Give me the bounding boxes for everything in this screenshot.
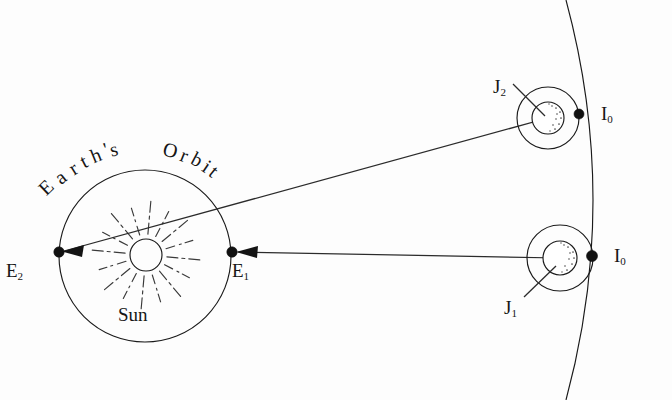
label-earth-e2-text: E <box>6 260 18 281</box>
io-dot-lower <box>587 251 598 262</box>
light-ray-j1-e1 <box>238 252 560 258</box>
label-jupiter-j1-sub: 1 <box>511 307 517 319</box>
earth-dot-e2 <box>54 247 64 257</box>
light-ray-j2-e2 <box>64 118 548 251</box>
sun-ray <box>89 250 125 253</box>
label-io-lower-sub: 0 <box>620 255 626 267</box>
sun-disc <box>130 239 162 271</box>
label-earth-e1-sub: 1 <box>244 270 250 282</box>
sun-ray <box>165 265 190 278</box>
roemer-diagram: Earth's Orbit Sun E2 E1 J2 J1 I0 I0 <box>0 0 672 400</box>
label-io-upper-sub: 0 <box>607 113 613 125</box>
diagram-canvas <box>0 0 672 400</box>
label-earth-e2-sub: 2 <box>18 270 24 282</box>
sun-ray <box>148 198 151 234</box>
io-dot-upper <box>574 109 584 119</box>
label-io-lower: I0 <box>614 246 626 267</box>
label-jupiter-j2-sub: 2 <box>500 86 506 98</box>
jupiter-system-lower <box>524 225 598 297</box>
label-io-upper: I0 <box>601 104 613 125</box>
jupiter-orbit-arc <box>566 0 593 400</box>
label-earth-e2: E2 <box>6 261 23 282</box>
leader-line-j1 <box>524 266 556 297</box>
arrowhead-e2 <box>62 245 84 257</box>
sun-ray <box>160 271 183 299</box>
sun-ray <box>123 274 136 299</box>
label-sun: Sun <box>118 305 148 324</box>
jupiter-body-upper <box>532 102 564 134</box>
earth-dot-e1 <box>227 247 237 257</box>
label-earth-e1: E1 <box>232 261 249 282</box>
arrowhead-e1 <box>236 246 258 258</box>
sun-ray <box>162 219 190 242</box>
sun-ray <box>167 257 203 260</box>
jupiter-system-upper <box>513 84 584 149</box>
label-earth-e1-text: E <box>232 260 244 281</box>
sun-ray <box>166 240 193 248</box>
sun-rays-icon <box>89 198 203 312</box>
sun-ray <box>152 275 160 302</box>
sun-ray <box>99 261 126 269</box>
label-jupiter-j1: J1 <box>504 298 517 319</box>
sun-ray <box>102 269 130 292</box>
label-jupiter-j2: J2 <box>493 77 506 98</box>
jupiter-body-lower <box>543 241 577 275</box>
